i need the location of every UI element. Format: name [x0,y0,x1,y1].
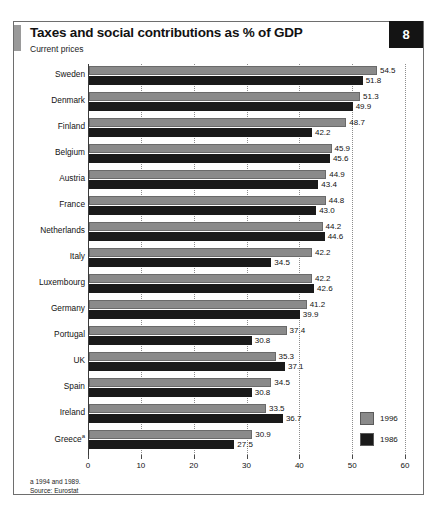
bar-1996 [89,274,312,283]
bar-1996 [89,378,271,387]
bar-value-label: 44.6 [328,232,344,241]
footnotes: a 1994 and 1989. Source: Eurostat [30,477,81,495]
bar-1986 [89,284,314,293]
bar-1986 [89,310,300,319]
figure-frame: Taxes and social contributions as % of G… [13,21,424,495]
legend-label: 1996 [380,414,398,423]
x-tick-label: 50 [348,461,357,470]
bar-1996 [89,352,276,361]
legend-item: 1986 [360,433,420,446]
x-tick-mark [194,455,195,459]
bar-1996 [89,118,346,127]
bar-value-label: 34.5 [274,258,290,267]
x-axis: 0102030405060 [88,455,405,473]
bar-1986 [89,414,283,423]
bar-row: France44.843.0 [89,196,405,216]
footnote-source: Source: Eurostat [30,486,81,495]
bar-row: Portugal37.430.8 [89,326,405,346]
x-tick-mark [405,455,406,459]
bar-value-label: 54.5 [380,66,396,75]
legend-swatch [360,412,374,425]
bar-1986 [89,336,252,345]
bar-value-label: 49.9 [356,102,372,111]
bar-1986 [89,388,252,397]
bar-value-label: 45.9 [335,144,351,153]
category-label: France [59,199,85,209]
bar-value-label: 33.5 [269,404,285,413]
bar-value-label: 30.8 [255,336,271,345]
footnote-a: a 1994 and 1989. [30,477,81,486]
bar-1986 [89,232,325,241]
category-label: UK [73,355,85,365]
x-tick-label: 10 [136,461,145,470]
bar-1996 [89,248,312,257]
legend-item: 1996 [360,412,420,425]
category-label: Portugal [54,329,85,339]
x-tick-label: 0 [86,461,90,470]
bar-1996 [89,196,326,205]
bar-value-label: 30.9 [255,430,271,439]
bar-row: Belgium45.945.6 [89,144,405,164]
bar-row: Luxembourg42.242.6 [89,274,405,294]
figure-number-badge: 8 [389,21,423,48]
bar-value-label: 44.8 [329,196,345,205]
plot-area: Sweden54.551.8Denmark51.349.9Finland48.7… [88,64,405,455]
bar-value-label: 34.5 [274,378,290,387]
bar-1986 [89,180,318,189]
category-label: Netherlands [40,225,85,235]
bar-row: Spain34.530.8 [89,378,405,398]
x-tick-label: 20 [189,461,198,470]
bar-value-label: 51.3 [363,92,379,101]
bar-1996 [89,300,307,309]
bar-value-label: 37.1 [288,362,304,371]
bar-1986 [89,258,271,267]
bar-row: Greecea30.927.5 [89,430,405,450]
category-label: Italy [70,251,85,261]
bar-1986 [89,362,285,371]
category-label: Austria [59,173,85,183]
category-label: Germany [51,303,85,313]
gridline-60 [405,64,406,455]
bar-row: Austria44.943.4 [89,170,405,190]
bar-row: Italy42.234.5 [89,248,405,268]
bar-value-label: 30.8 [255,388,271,397]
bar-value-label: 35.3 [279,352,295,361]
category-label: Luxembourg [39,277,85,287]
bar-1996 [89,222,323,231]
x-tick-mark [247,455,248,459]
bar-1996 [89,144,332,153]
bar-1996 [89,66,377,75]
bar-value-label: 44.9 [329,170,345,179]
bar-value-label: 44.2 [326,222,342,231]
bar-row: Germany41.239.9 [89,300,405,320]
bar-value-label: 42.6 [317,284,333,293]
bar-value-label: 42.2 [315,128,331,137]
category-label: Ireland [60,407,85,417]
bar-value-label: 39.9 [303,310,319,319]
bar-row: Netherlands44.244.6 [89,222,405,242]
bar-1986 [89,102,353,111]
category-label: Denmark [51,95,85,105]
bar-1986 [89,440,234,449]
bar-value-label: 42.2 [315,248,331,257]
bar-1996 [89,430,252,439]
bar-value-label: 36.7 [286,414,302,423]
title-accent-bar [14,25,21,51]
bar-value-label: 41.2 [310,300,326,309]
bar-1986 [89,76,363,85]
bar-value-label: 48.7 [349,118,365,127]
bar-1986 [89,206,316,215]
bar-row: Finland48.742.2 [89,118,405,138]
bar-1996 [89,326,287,335]
chart-subtitle: Current prices [30,44,83,54]
x-tick-mark [88,455,89,459]
legend-swatch [360,433,374,446]
category-label: Greecea [54,433,85,444]
bar-1986 [89,128,312,137]
bar-value-label: 51.8 [366,76,382,85]
page-title: Taxes and social contributions as % of G… [30,25,303,40]
bar-value-label: 42.2 [315,274,331,283]
x-tick-label: 30 [242,461,251,470]
bar-1996 [89,170,326,179]
bar-value-label: 43.0 [319,206,335,215]
